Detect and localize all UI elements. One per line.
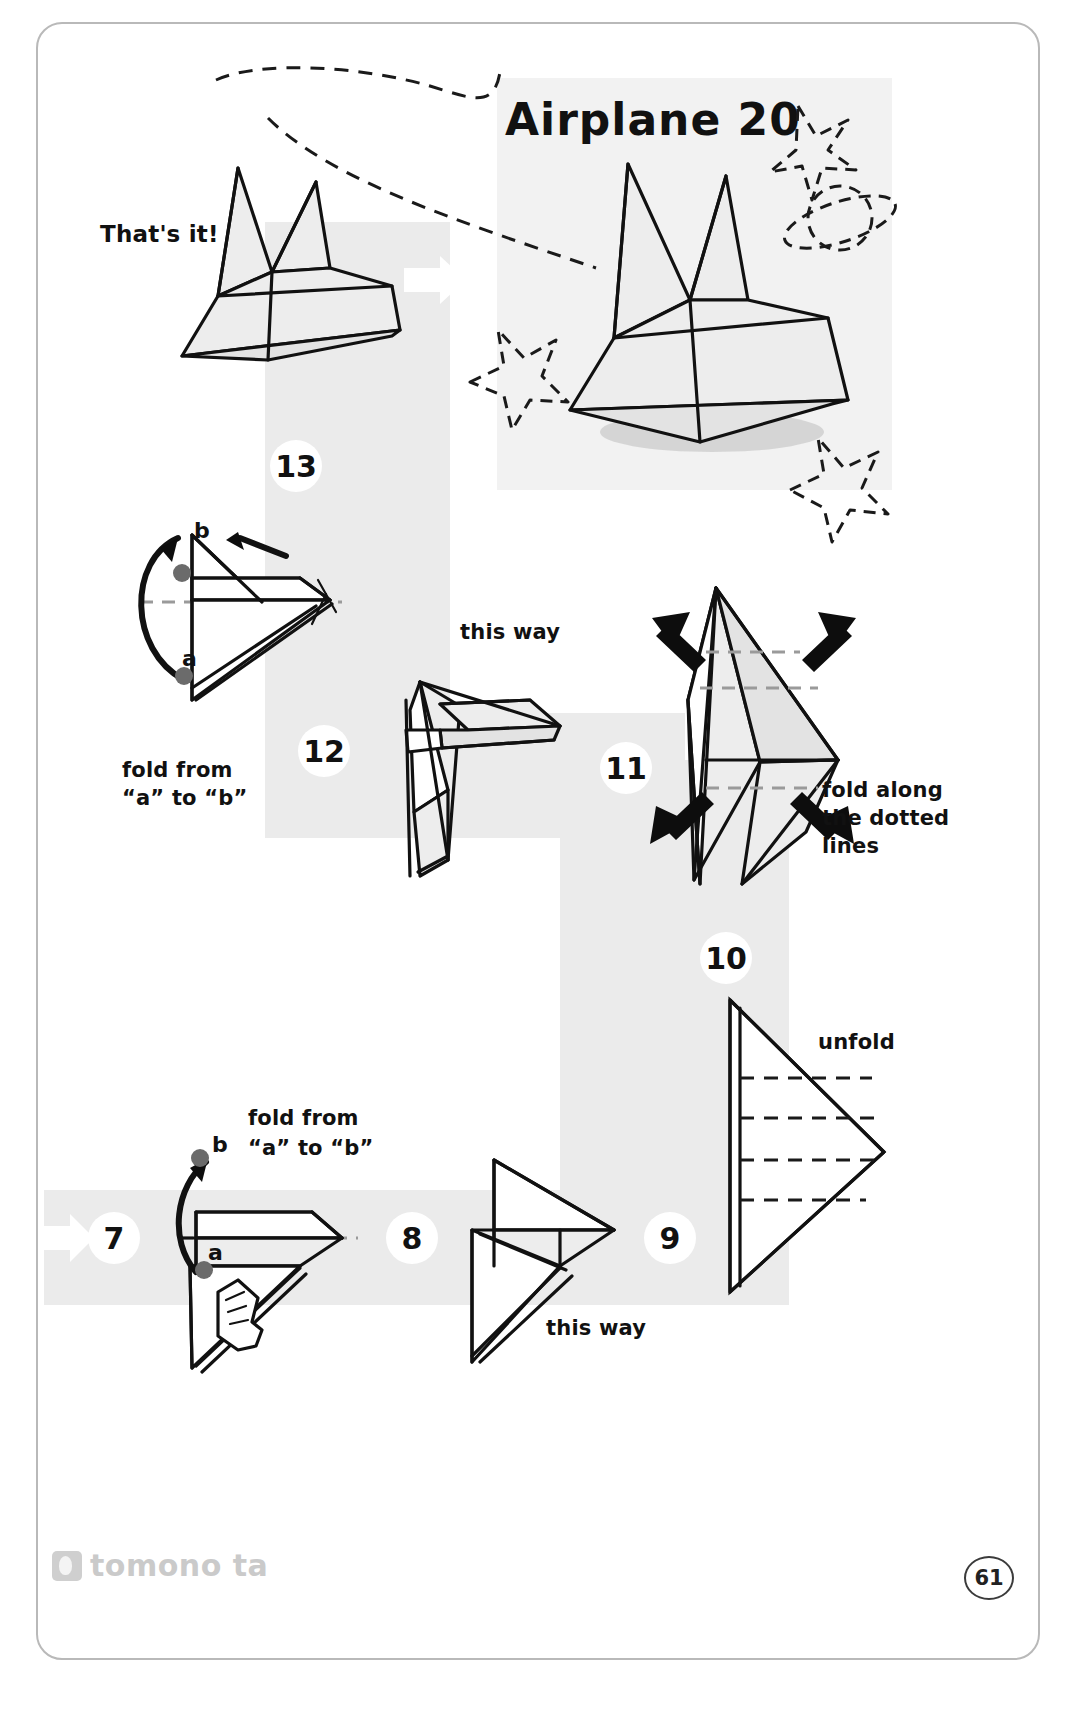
white-arrow-icon: [0, 0, 1073, 1723]
brand-name: tomono ta: [90, 1548, 268, 1583]
page-number: 61: [964, 1556, 1014, 1600]
brand-logo: tomono ta: [52, 1548, 268, 1583]
origami-instruction-page: Airplane 20: [0, 0, 1073, 1723]
tomonota-mark-icon: [52, 1551, 82, 1581]
